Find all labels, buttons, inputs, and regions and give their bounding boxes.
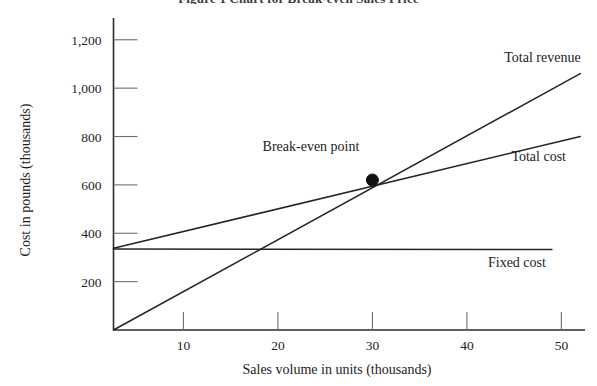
- x-tick-label: 40: [460, 338, 474, 353]
- x-tick-label: 30: [366, 338, 380, 353]
- plot-axes: [114, 18, 586, 330]
- y-axis-ticks: 2004006008001,0001,200: [71, 33, 137, 290]
- data-series-group: [114, 74, 581, 330]
- y-tick-label: 600: [81, 178, 102, 193]
- series-line-total-revenue: [114, 74, 581, 330]
- y-tick-label: 200: [81, 275, 102, 290]
- break-even-chart: 2004006008001,0001,200 1020304050 Total …: [0, 0, 597, 386]
- x-tick-label: 20: [271, 338, 285, 353]
- series-label-total-revenue: Total revenue: [504, 50, 580, 65]
- y-tick-label: 1,200: [71, 33, 102, 48]
- x-tick-label: 10: [177, 338, 191, 353]
- x-axis-title: Sales volume in units (thousands): [243, 362, 432, 378]
- x-tick-label: 50: [555, 338, 569, 353]
- chart-page: Figure 1 Chart for Break-even Sales Pric…: [0, 0, 597, 386]
- y-axis-title: Cost in pounds (thousands): [18, 103, 34, 256]
- annotations-group: Break-even point: [263, 139, 379, 186]
- y-tick-label: 1,000: [71, 81, 102, 96]
- y-tick-label: 800: [81, 130, 102, 145]
- series-label-fixed-cost: Fixed cost: [488, 255, 546, 270]
- x-axis-ticks: 1020304050: [177, 312, 569, 353]
- series-labels-group: Total revenueTotal costFixed cost: [488, 50, 581, 270]
- break-even-point-marker: [366, 174, 378, 186]
- annotation-label-break-even-point: Break-even point: [263, 139, 360, 154]
- y-tick-label: 400: [81, 226, 102, 241]
- series-label-total-cost: Total cost: [511, 149, 566, 164]
